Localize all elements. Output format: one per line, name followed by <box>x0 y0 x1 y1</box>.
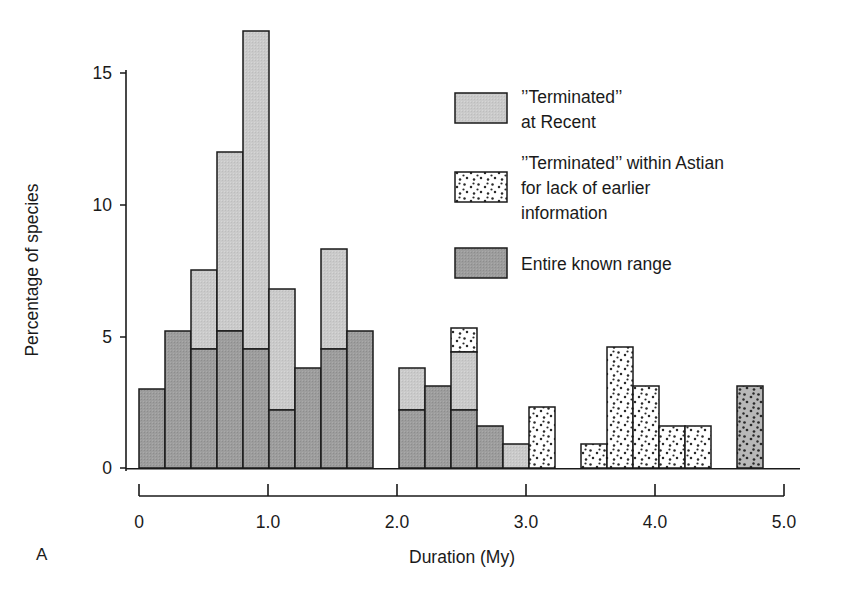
x-tick-label-5: 5.0 <box>772 512 797 532</box>
y-tick-label-15: 15 <box>93 63 112 83</box>
bar-bin-12-range <box>451 410 477 468</box>
x-axis-title: Duration (My) <box>409 547 515 567</box>
legend-label-0-line-1: at Recent <box>521 112 596 132</box>
bar-bin-7-terminated <box>321 249 347 349</box>
x-tick-label-2: 2.0 <box>385 512 410 532</box>
legend-label-2-line-0: Entire known range <box>521 254 672 274</box>
y-tick-label-5: 5 <box>102 327 112 347</box>
histogram-chart: 15 10 5 0 Percentage of species <box>0 0 842 600</box>
bar-bin-12-terminated <box>451 352 477 410</box>
y-axis-title: Percentage of species <box>22 183 42 356</box>
y-tick-label-10: 10 <box>93 195 113 215</box>
bar-bin-20-astian <box>659 426 685 468</box>
x-tick-label-0: 0 <box>134 512 144 532</box>
figure-panel-a: 15 10 5 0 Percentage of species <box>0 0 842 600</box>
bar-bin-14 <box>503 444 529 468</box>
bar-bin-5-range <box>269 410 295 468</box>
x-tick-label-1: 1.0 <box>256 512 281 532</box>
bar-bin-6 <box>295 368 321 468</box>
bar-bin-4-range <box>243 349 269 468</box>
panel-label: A <box>36 545 48 564</box>
bar-bin-2-range <box>191 349 217 468</box>
bar-bin-3-range <box>217 331 243 468</box>
bar-bin-17-astian <box>581 444 607 468</box>
bar-bin-15-astian <box>529 407 555 468</box>
bar-bin-5-terminated <box>269 289 295 410</box>
bar-bin-1 <box>165 331 191 468</box>
bar-bin-23-range-stippled <box>737 386 763 468</box>
legend-label-0-line-0: ’’Terminated’’ <box>521 87 623 107</box>
bar-bin-11 <box>425 386 451 468</box>
bar-bin-19-astian <box>633 386 659 468</box>
bar-bin-8 <box>347 331 373 468</box>
legend-label-1-line-0: ’’Terminated’’ within Astian <box>521 153 724 173</box>
bar-bin-10-terminated <box>399 368 425 410</box>
bar-bin-4-terminated <box>243 31 269 349</box>
x-tick-label-4: 4.0 <box>643 512 668 532</box>
bar-bin-7-range <box>321 349 347 468</box>
x-tick-label-3: 3.0 <box>514 512 539 532</box>
bar-bin-13 <box>477 426 503 468</box>
bar-bin-2-terminated <box>191 270 217 349</box>
legend-label-1-line-2: information <box>521 203 608 223</box>
stipple-white-swatch <box>455 172 507 202</box>
legend-label-1-line-1: for lack of earlier <box>521 178 651 198</box>
bar-bin-18-astian <box>607 347 633 468</box>
bar-bin-10-range <box>399 410 425 468</box>
bar-bin-3-terminated <box>217 152 243 331</box>
bar-bin-12-astian <box>451 328 477 352</box>
light-gray-swatch <box>455 93 507 123</box>
y-tick-label-0: 0 <box>102 458 112 478</box>
bar-bin-21-astian <box>685 426 711 468</box>
medium-gray-swatch <box>455 248 507 278</box>
bar-bin-0 <box>139 389 165 468</box>
